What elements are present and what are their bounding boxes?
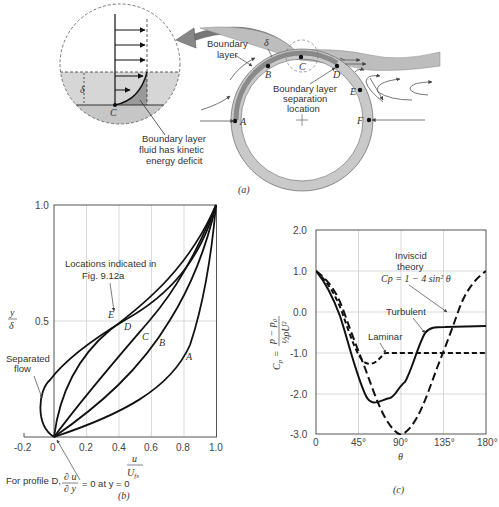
svg-text:1.0: 1.0 [35,200,49,211]
point-b-label: B [265,69,271,80]
svg-text:90°: 90° [393,437,408,448]
derivative-den: ∂ y [64,483,76,494]
deficit-label-line3: energy deficit [146,155,203,166]
theta-axis-label: θ [398,451,403,462]
svg-text:180°: 180° [477,437,498,448]
svg-text:Cp =: Cp = [271,351,284,370]
footnote-suffix: = 0 at y = 0 [82,478,130,489]
point-e-label: E [349,86,356,97]
separated-flow-line2: flow [14,363,31,374]
profile-a-label: A [185,351,193,362]
magnify-arrow-icon [176,28,196,48]
svg-text:0: 0 [313,437,319,448]
delta-label: δ [264,37,269,48]
inviscid-equation: Cp = 1 − 4 sin² θ [381,273,451,284]
svg-text:0.0: 0.0 [293,307,307,318]
svg-text:p − p₀: p − p₀ [266,318,277,345]
profile-d-label: D [123,321,132,332]
inviscid-label-line2: theory [397,261,424,272]
svg-text:1.0: 1.0 [293,266,307,277]
profile-e-label: E [107,309,114,320]
caption-c: (c) [393,484,405,496]
inset-magnifier: δ C [55,4,190,125]
svg-text:0.8: 0.8 [176,442,190,453]
caption-a: (a) [238,184,250,196]
panel-a: δ C Boundary layer fluid has kinetic ene… [55,4,440,196]
figure-canvas: δ C Boundary layer fluid has kinetic ene… [0,0,499,507]
svg-text:0.4: 0.4 [112,442,126,453]
inset-delta-label: δ [80,84,85,95]
boundary-layer-label-line1: Boundary [207,38,248,49]
separation-label-line3: location [287,103,320,114]
locations-note-line1: Locations indicated in [65,258,156,269]
svg-text:0: 0 [50,442,56,453]
inviscid-label-line1: Inviscid [395,250,427,261]
point-d-label: D [332,69,341,80]
svg-text:-0.2: -0.2 [14,442,32,453]
svg-text:0.6: 0.6 [144,442,158,453]
point-c-label: C [299,61,306,72]
profile-c-label: C [142,331,149,342]
point-a-label: A [239,116,247,127]
panel-b-chart: E D C B A Locations indicated in Fig. 9.… [6,200,223,502]
footnote-prefix: For profile D, [6,475,61,486]
profile-b-label: B [159,337,165,348]
locations-note-line2: Fig. 9.12a [82,270,125,281]
derivative-num: ∂ u [64,471,76,482]
point-f-label: F [356,115,364,126]
svg-text:-2.0: -2.0 [290,389,308,400]
cp-axis-label: Cp = p − p₀ ½ρU² [266,316,291,370]
svg-text:1.0: 1.0 [209,442,223,453]
turbulent-label: Turbulent [386,306,426,317]
svg-text:135°: 135° [434,437,455,448]
x-axis-label-num: u [132,453,137,464]
laminar-label: Laminar [368,331,402,342]
panel-c-chart: Inviscid theory Cp = 1 − 4 sin² θ Turbul… [266,225,498,496]
y-axis-label-den: δ [9,320,14,331]
svg-text:½ρU²: ½ρU² [280,320,291,344]
inset-point-c-label: C [110,107,117,118]
deficit-label-line2: fluid has kinetic [139,144,204,155]
svg-text:-3.0: -3.0 [290,429,308,440]
caption-b: (b) [118,490,130,502]
svg-text:45°: 45° [351,437,366,448]
deficit-label-line1: Boundary layer [142,133,206,144]
svg-text:2.0: 2.0 [293,225,307,236]
boundary-layer-label-line2: layer [217,49,238,60]
svg-text:0.5: 0.5 [35,316,49,327]
svg-text:0.2: 0.2 [79,442,93,453]
y-axis-label-num: y [9,307,15,318]
svg-text:-1.0: -1.0 [290,348,308,359]
